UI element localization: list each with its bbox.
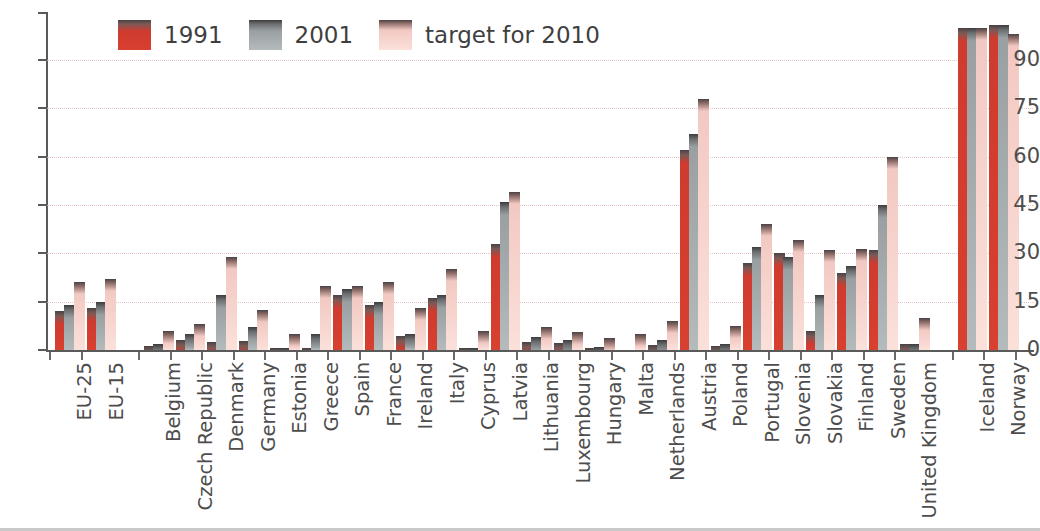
bar-fill <box>635 334 646 350</box>
y-tick-label: 30 <box>1004 242 1040 263</box>
y-tick-label: 15 <box>1004 291 1040 312</box>
x-tick-mark <box>296 352 298 360</box>
bar[interactable] <box>635 334 646 350</box>
x-tick-mark <box>800 352 802 360</box>
x-tick-mark <box>485 352 487 360</box>
bar[interactable] <box>824 250 835 350</box>
x-tick-mark <box>453 352 455 360</box>
y-tick-mark <box>38 204 47 206</box>
x-tick-mark <box>579 352 581 360</box>
bar-fill <box>226 257 237 350</box>
x-tick-label: France <box>385 362 405 427</box>
bar[interactable] <box>887 157 898 350</box>
bar[interactable] <box>667 321 678 350</box>
y-tick-label: 60 <box>1004 146 1040 167</box>
bar[interactable] <box>74 282 85 350</box>
bar[interactable] <box>793 240 804 350</box>
bar-fill <box>698 99 709 350</box>
bar-group <box>491 12 523 350</box>
bar[interactable] <box>509 192 520 350</box>
bar-group <box>459 12 491 350</box>
x-tick-label: Malta <box>637 362 657 416</box>
bar-group <box>365 12 397 350</box>
x-tick-label: Austria <box>700 362 720 431</box>
x-tick-label: Poland <box>731 362 751 427</box>
x-tick-label: Lithuania <box>542 362 562 452</box>
bar-group <box>144 12 176 350</box>
bar[interactable] <box>320 286 331 350</box>
bar-fill <box>415 308 426 350</box>
bar[interactable] <box>105 279 116 350</box>
bar[interactable] <box>572 332 583 350</box>
x-tick-mark <box>894 352 896 360</box>
bar[interactable] <box>194 324 205 350</box>
bar-group <box>333 12 365 350</box>
bar[interactable] <box>289 334 300 350</box>
bar-fill <box>320 286 331 350</box>
bar-group <box>711 12 743 350</box>
bar-fill <box>887 157 898 350</box>
bar[interactable] <box>919 318 930 350</box>
x-tick-mark <box>49 352 51 360</box>
bar-group <box>617 12 649 350</box>
y-tick-mark <box>38 59 47 61</box>
x-tick-label: Spain <box>353 362 373 416</box>
bar[interactable] <box>352 286 363 350</box>
x-tick-label: Ireland <box>416 362 436 429</box>
plot-area <box>47 12 1033 350</box>
x-tick-mark <box>390 352 392 360</box>
bar-fill <box>730 326 741 350</box>
bar-fill <box>509 192 520 350</box>
bar[interactable] <box>478 331 489 350</box>
bar-fill <box>163 331 174 350</box>
x-tick-mark <box>422 352 424 360</box>
x-tick-mark <box>548 352 550 360</box>
bar-group <box>428 12 460 350</box>
bar[interactable] <box>226 257 237 350</box>
y-tick-mark <box>38 107 47 109</box>
bar-group <box>585 12 617 350</box>
x-tick-mark <box>952 352 954 360</box>
bar-group <box>806 12 838 350</box>
x-tick-mark <box>233 352 235 360</box>
bar-fill <box>257 310 268 350</box>
y-tick-mark <box>38 301 47 303</box>
bar[interactable] <box>604 338 615 350</box>
x-tick-mark <box>264 352 266 360</box>
y-tick-label: 90 <box>1004 49 1040 70</box>
x-tick-label: Greece <box>322 362 342 431</box>
bar[interactable] <box>415 308 426 350</box>
bar-group <box>176 12 208 350</box>
bar-group <box>302 12 334 350</box>
bar[interactable] <box>163 331 174 350</box>
bar[interactable] <box>541 327 552 350</box>
bar[interactable] <box>383 282 394 350</box>
x-tick-label: Finland <box>857 362 877 432</box>
bar[interactable] <box>698 99 709 350</box>
bar-fill <box>478 331 489 350</box>
bar-group <box>554 12 586 350</box>
x-tick-label: Slovenia <box>794 362 814 445</box>
bar[interactable] <box>976 28 987 350</box>
x-tick-label: Denmark <box>227 362 247 452</box>
bar-group <box>207 12 239 350</box>
x-tick-label: Slovakia <box>826 362 846 444</box>
x-tick-mark <box>170 352 172 360</box>
x-tick-label: Iceland <box>978 362 998 433</box>
bar[interactable] <box>856 249 867 351</box>
x-tick-mark <box>81 352 83 360</box>
bar-group <box>774 12 806 350</box>
bar[interactable] <box>446 269 457 350</box>
bar-fill <box>446 269 457 350</box>
bar-fill <box>976 28 987 350</box>
bar-group <box>869 12 901 350</box>
bar-fill <box>194 324 205 350</box>
x-tick-mark <box>611 352 613 360</box>
bar-fill <box>793 240 804 350</box>
bar-group <box>270 12 302 350</box>
bar[interactable] <box>761 224 772 350</box>
bar-fill <box>541 327 552 350</box>
bar-fill <box>289 334 300 350</box>
bar[interactable] <box>257 310 268 350</box>
bar[interactable] <box>730 326 741 350</box>
